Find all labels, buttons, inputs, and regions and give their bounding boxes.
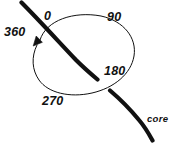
core-curve-upper-segment <box>22 3 98 80</box>
core-curve-group <box>22 3 153 141</box>
angle-label-90: 90 <box>107 11 121 24</box>
diagram-canvas: 0 90 180 270 360 core <box>0 0 177 143</box>
angle-label-180: 180 <box>104 65 125 78</box>
phase-loop-arc <box>33 15 134 95</box>
core-curve-label: core <box>147 114 168 124</box>
angle-label-270: 270 <box>42 95 63 108</box>
angle-label-360: 360 <box>4 26 25 39</box>
angle-label-0: 0 <box>44 10 51 23</box>
phase-loop-group <box>33 15 134 95</box>
